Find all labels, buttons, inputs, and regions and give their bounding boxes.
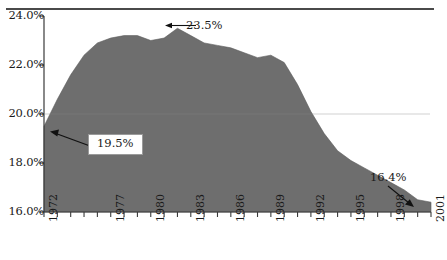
x-tick-label: 2001 [435,194,446,222]
y-axis-tick-labels: 24.0% 22.0% 20.0% 18.0% 16.0% [0,0,44,260]
x-tick-label: 1983 [195,194,206,222]
x-tick-label: 1980 [155,194,166,222]
y-tick-label: 16.0% [0,206,44,218]
y-tick-label: 20.0% [0,108,44,120]
y-tick-label: 22.0% [0,59,44,71]
x-tick-label: 1972 [48,194,59,222]
x-tick-label: 1995 [355,194,366,222]
x-tick-label: 1998 [395,194,406,222]
x-tick-label: 1992 [315,194,326,222]
annotation-label-23-5: 23.5% [186,20,223,32]
y-tick-label: 18.0% [0,157,44,169]
annotation-label-16-4: 16.4% [370,172,407,184]
area-series-fill [44,28,431,212]
y-tick-label: 24.0% [0,10,44,22]
x-tick-label: 1977 [115,194,126,222]
x-tick-label: 1989 [275,194,286,222]
annotation-label-19-5: 19.5% [88,134,143,155]
x-tick-label: 1986 [235,194,246,222]
